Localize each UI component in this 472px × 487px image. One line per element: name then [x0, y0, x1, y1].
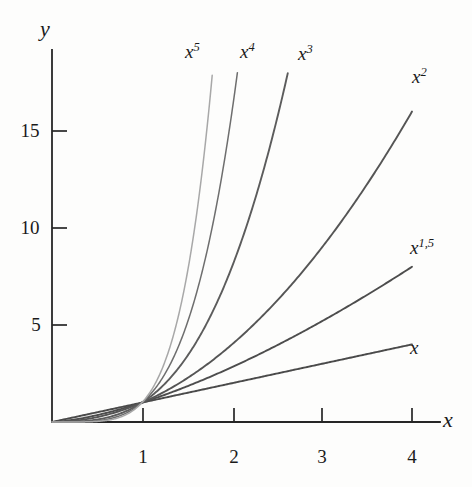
curve-x4 — [52, 73, 237, 422]
x-tick-label-2: 2 — [222, 447, 246, 466]
curve-label-x15: x1,5 — [410, 238, 434, 257]
curve-label-x5-exponent: 5 — [193, 40, 199, 54]
x-tick-label-3: 3 — [310, 447, 334, 466]
x-tick-label-4: 4 — [400, 447, 424, 466]
y-tick-label-10: 10 — [14, 218, 46, 237]
curve-label-x1: x — [410, 338, 418, 357]
chart-figure: y x 15 10 5 1 2 3 4 x5 x4 x3 x2 x1,5 x — [0, 0, 472, 487]
curve-label-x4-exponent: 4 — [248, 40, 254, 54]
x-tick-label-1: 1 — [131, 447, 155, 466]
curve-label-x2-exponent: 2 — [420, 65, 426, 79]
y-tick-label-15: 15 — [14, 121, 46, 140]
power-functions-plot — [0, 0, 472, 487]
curve-label-x3: x3 — [298, 44, 313, 63]
x-tick-marks — [143, 408, 412, 422]
curve-x — [52, 344, 412, 422]
curve-label-x2: x2 — [412, 67, 427, 86]
curves-group — [52, 73, 412, 422]
curve-label-x5: x5 — [185, 42, 200, 61]
axes-group — [52, 50, 440, 422]
curve-label-x1-base: x — [410, 337, 418, 358]
curve-label-x15-exponent: 1,5 — [418, 236, 434, 250]
y-tick-label-5: 5 — [26, 315, 46, 334]
curve-label-x3-exponent: 3 — [306, 42, 312, 56]
curve-x3 — [52, 73, 288, 422]
curve-label-x4: x4 — [240, 42, 255, 61]
x-axis-label: x — [443, 409, 453, 431]
curve-x5 — [52, 75, 212, 422]
y-tick-marks — [52, 131, 67, 325]
y-axis-label: y — [40, 18, 50, 40]
